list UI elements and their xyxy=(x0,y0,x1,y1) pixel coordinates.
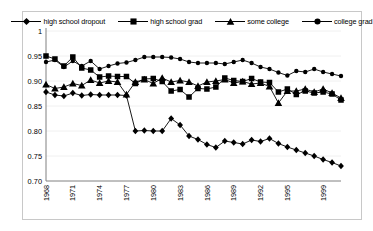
data-point-circle-icon xyxy=(267,67,271,71)
data-point-circle-icon xyxy=(89,59,93,63)
data-point-diamond-icon xyxy=(302,150,308,156)
data-point-diamond-icon xyxy=(320,156,326,162)
data-point-circle-icon xyxy=(115,61,119,65)
data-point-diamond-icon xyxy=(267,135,273,141)
data-point-diamond-icon xyxy=(115,92,121,98)
data-point-square-icon xyxy=(276,89,282,95)
data-point-diamond-icon xyxy=(284,144,290,150)
x-axis-tick-label: 1995 xyxy=(283,185,292,201)
data-point-diamond-icon xyxy=(70,90,76,96)
x-axis-tick-label: 1974 xyxy=(95,185,104,201)
data-point-circle-icon xyxy=(124,60,128,64)
data-point-triangle-icon xyxy=(60,83,68,90)
data-point-triangle-icon xyxy=(158,74,166,81)
x-axis-tick-label: 1977 xyxy=(122,185,131,201)
data-point-triangle-icon xyxy=(87,76,95,83)
x-axis-tick-label: 1983 xyxy=(176,185,185,201)
data-point-circle-icon xyxy=(330,72,334,76)
data-point-circle-icon xyxy=(178,57,182,61)
y-axis-tick-label: 0.75 xyxy=(28,152,42,161)
data-point-square-icon xyxy=(177,87,183,93)
data-point-square-icon xyxy=(213,84,219,90)
data-point-diamond-icon xyxy=(79,92,85,98)
data-point-square-icon xyxy=(97,74,103,80)
data-point-circle-icon xyxy=(106,64,110,68)
data-point-circle-icon xyxy=(258,65,262,69)
data-point-diamond-icon xyxy=(195,136,201,142)
data-point-circle-icon xyxy=(205,61,209,65)
data-point-circle-icon xyxy=(312,67,316,71)
data-point-diamond-icon xyxy=(204,141,210,147)
data-point-circle-icon xyxy=(249,61,253,65)
x-axis-tick-label: 1968 xyxy=(42,185,51,201)
data-point-circle-icon xyxy=(223,62,227,66)
y-axis-tick-label: 0.95 xyxy=(28,52,42,61)
data-point-square-icon xyxy=(43,53,49,59)
data-point-circle-icon xyxy=(321,70,325,74)
data-point-circle-icon xyxy=(160,55,164,59)
data-point-circle-icon xyxy=(240,58,244,62)
data-point-circle-icon xyxy=(232,60,236,64)
data-point-circle-icon xyxy=(339,74,343,78)
data-point-circle-icon xyxy=(133,58,137,62)
data-point-diamond-icon xyxy=(52,92,58,98)
x-axis-tick-label: 1999 xyxy=(319,185,328,201)
data-point-square-icon xyxy=(124,74,130,80)
x-axis-tick-label: 1992 xyxy=(256,185,265,201)
data-point-triangle-icon xyxy=(194,82,202,89)
data-point-circle-icon xyxy=(196,61,200,65)
data-point-circle-icon xyxy=(53,58,57,62)
data-point-triangle-icon xyxy=(275,99,283,106)
y-axis-tick-label: 0.70 xyxy=(28,177,42,186)
data-point-diamond-icon xyxy=(213,144,219,150)
y-axis-tick-label: 0.90 xyxy=(28,77,42,86)
data-point-diamond-icon xyxy=(231,139,237,145)
data-point-circle-icon xyxy=(294,69,298,73)
data-point-diamond-icon xyxy=(249,137,255,143)
data-point-circle-icon xyxy=(142,55,146,59)
x-axis-tick-label: 1971 xyxy=(68,185,77,201)
data-point-diamond-icon xyxy=(150,128,156,134)
data-point-diamond-icon xyxy=(293,147,299,153)
data-point-circle-icon xyxy=(80,64,84,68)
data-point-diamond-icon xyxy=(338,163,344,169)
data-point-circle-icon xyxy=(151,55,155,59)
data-point-circle-icon xyxy=(71,59,75,63)
data-point-triangle-icon xyxy=(319,85,327,92)
y-axis-tick-label: 0.80 xyxy=(28,127,42,136)
data-point-diamond-icon xyxy=(311,153,317,159)
data-point-diamond-icon xyxy=(329,159,335,165)
data-point-triangle-icon xyxy=(123,91,131,98)
data-point-diamond-icon xyxy=(222,138,228,144)
y-axis-tick-label: 0.85 xyxy=(28,102,42,111)
data-point-circle-icon xyxy=(303,70,307,74)
data-point-square-icon xyxy=(88,67,94,73)
data-point-circle-icon xyxy=(62,65,66,69)
data-point-circle-icon xyxy=(187,60,191,64)
data-point-circle-icon xyxy=(276,70,280,74)
data-point-circle-icon xyxy=(285,73,289,77)
x-axis-tick-label: 1980 xyxy=(149,185,158,201)
data-point-square-icon xyxy=(186,94,192,100)
data-point-diamond-icon xyxy=(240,141,246,147)
data-point-diamond-icon xyxy=(106,92,112,98)
data-point-square-icon xyxy=(204,86,210,92)
data-point-square-icon xyxy=(168,88,174,94)
data-point-circle-icon xyxy=(44,60,48,64)
data-point-circle-icon xyxy=(214,61,218,65)
data-point-diamond-icon xyxy=(88,91,94,97)
data-point-diamond-icon xyxy=(97,92,103,98)
data-point-diamond-icon xyxy=(43,89,49,95)
x-axis-tick-label: 1989 xyxy=(229,185,238,201)
data-point-circle-icon xyxy=(97,67,101,71)
y-axis-tick-label: 1 xyxy=(38,27,42,36)
data-point-diamond-icon xyxy=(132,128,138,134)
data-point-circle-icon xyxy=(169,55,173,59)
data-point-diamond-icon xyxy=(276,140,282,146)
series-line-high-school-dropout xyxy=(46,92,341,166)
data-point-triangle-icon xyxy=(176,77,184,84)
data-point-diamond-icon xyxy=(141,127,147,133)
